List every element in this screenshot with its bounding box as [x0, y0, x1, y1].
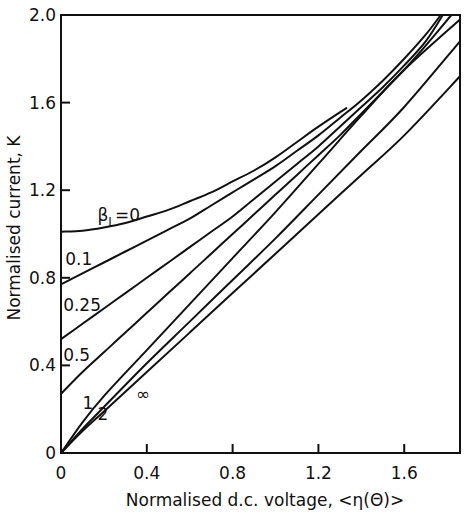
chart: 00.40.81.21.6 00.40.81.21.62.0 βL=00.10.…	[0, 0, 468, 521]
x-tick-label: 0	[56, 463, 67, 483]
curve-label: 0.1	[65, 249, 92, 269]
x-tick-label: 1.6	[391, 463, 418, 483]
y-tick-label: 2.0	[29, 5, 56, 25]
y-tick-label: 1.2	[29, 180, 56, 200]
curve-label: 2	[97, 404, 108, 424]
curve-label: 0.5	[63, 345, 90, 365]
curve-label: ∞	[136, 384, 150, 404]
curve-label: 0.25	[63, 295, 101, 315]
curve-label: 1	[82, 393, 93, 413]
y-tick-label: 0.4	[29, 355, 56, 375]
y-axis-title: Normalised current, K	[4, 135, 24, 321]
y-tick-label: 0.8	[29, 268, 56, 288]
y-tick-label: 1.6	[29, 93, 56, 113]
x-tick-label: 0.8	[219, 463, 246, 483]
x-tick-label: 0.4	[133, 463, 160, 483]
x-tick-label: 1.2	[305, 463, 332, 483]
y-tick-label: 0	[45, 443, 56, 463]
x-axis-title: Normalised d.c. voltage, <η(Θ)>	[126, 490, 404, 510]
